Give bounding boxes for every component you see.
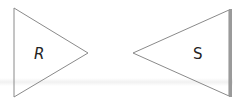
triangle-s [133,10,229,96]
triangle-r [14,8,88,97]
triangle-r-label: R [34,45,44,63]
triangle-s-label: S [193,45,203,63]
triangles-diagram: R S [0,0,233,102]
